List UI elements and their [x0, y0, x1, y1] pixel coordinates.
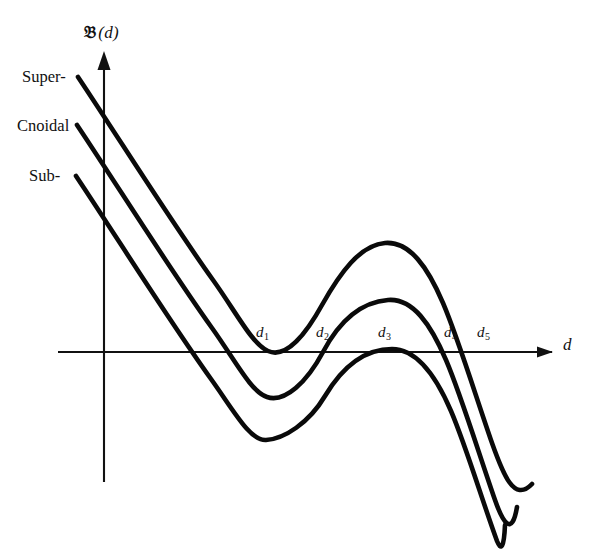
tick-d4-base: d: [444, 324, 452, 340]
y-axis-arrow-icon: [98, 51, 111, 70]
figure-canvas: [0, 0, 596, 555]
tick-d3-base: d: [378, 324, 386, 340]
tick-d3-sub: 3: [386, 331, 391, 342]
tick-d5-sub: 5: [485, 331, 490, 342]
tick-label-d4: d4: [444, 325, 457, 340]
tick-d5-base: d: [477, 324, 485, 340]
tick-label-d3: d3: [378, 325, 391, 340]
figure-container: 𝔅(d) d Super- Cnoidal Sub- d1 d2 d3 d4 d…: [0, 0, 596, 555]
tick-label-d1: d1: [256, 325, 269, 340]
tick-d2-base: d: [316, 324, 324, 340]
tick-d2-sub: 2: [324, 331, 329, 342]
y-axis-label: 𝔅(d): [84, 24, 119, 41]
y-axis-label-arg: (d): [98, 23, 119, 42]
y-axis-label-symbol: 𝔅: [84, 22, 96, 42]
tick-label-d2: d2: [316, 325, 329, 340]
curve-label-cnoidal: Cnoidal: [17, 118, 69, 135]
tick-d1-base: d: [256, 324, 264, 340]
x-axis-arrow-icon: [537, 347, 553, 358]
tick-d1-sub: 1: [264, 331, 269, 342]
tick-label-d5: d5: [477, 325, 490, 340]
tick-d4-sub: 4: [452, 331, 457, 342]
curve-label-sub: Sub-: [29, 168, 60, 185]
curve-label-super: Super-: [22, 69, 66, 86]
x-axis-label: d: [563, 336, 572, 353]
curve-sub: [76, 176, 505, 546]
